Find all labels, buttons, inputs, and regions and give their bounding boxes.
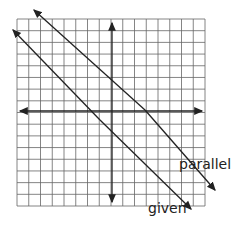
given-line — [100, 120, 191, 209]
given-line — [13, 30, 100, 120]
given-label: given — [148, 201, 187, 215]
parallel-line — [145, 110, 215, 190]
parallel-line — [34, 10, 145, 110]
coordinate-plane — [0, 0, 234, 236]
grid — [17, 19, 205, 206]
parallel-label: parallel — [179, 157, 231, 171]
